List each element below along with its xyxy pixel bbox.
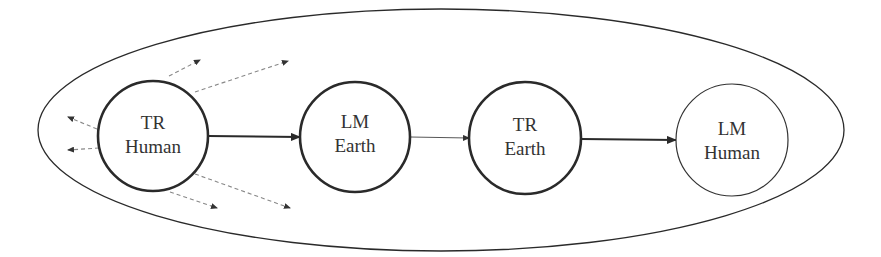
diagram-canvas: TR Human LM Earth TR Earth LM Human [0, 0, 881, 257]
node-label-line2: Earth [334, 135, 376, 156]
edge-lmearth-trearth [410, 137, 469, 138]
node-label-line1: LM [718, 118, 747, 139]
node-label-line2: Human [704, 142, 760, 163]
node-lm-earth: LM Earth [300, 82, 410, 192]
edge-trhuman-lmearth [208, 136, 300, 137]
node-tr-human: TR Human [98, 81, 208, 191]
node-tr-earth: TR Earth [469, 82, 581, 194]
node-label-line1: LM [341, 111, 370, 132]
node-lm-human: LM Human [676, 84, 788, 196]
node-label-line2: Earth [504, 138, 546, 159]
node-label-line1: TR [513, 114, 538, 135]
node-label-line2: Human [125, 136, 181, 157]
node-label-line1: TR [141, 112, 166, 133]
edge-trearth-lmhuman [581, 139, 676, 140]
